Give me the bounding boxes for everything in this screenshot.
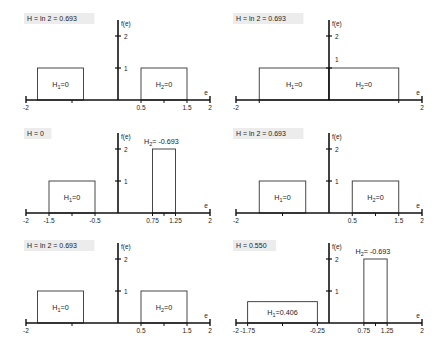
distribution-box: H2= -0.693	[356, 247, 391, 323]
y-axis: 12f(e)	[115, 20, 131, 100]
chart-panel-middle-right: H = ln 2 = 0.693H1=0H2=0-20.51.52e12f(e)	[233, 128, 424, 224]
x-tick-label: 1.5	[394, 217, 403, 224]
distribution-box: H1=0	[38, 68, 84, 100]
x-tick-label: -0.25	[310, 327, 325, 334]
x-tick-label: 2	[208, 327, 212, 334]
chart-panel-bottom-right: H = 0.550H1=0.406H2= -0.693-2-1.75-0.250…	[233, 240, 424, 334]
entropy-label: H = 0	[24, 128, 52, 139]
box-entropy-label: H2=0	[156, 80, 172, 90]
y-tick-label: 2	[335, 146, 339, 153]
x-tick-label: 0.5	[136, 104, 145, 111]
y-axis: 12f(e)	[115, 133, 131, 213]
distribution-box: H2=0	[329, 68, 399, 100]
chart-panel-middle-left: H = 0H1=0H2= -0.693-2-1.5-0.50.751.252e1…	[23, 128, 212, 224]
y-tick-label: 1	[335, 56, 339, 63]
svg-text:H = ln 2 = 0.693: H = ln 2 = 0.693	[236, 130, 286, 137]
svg-text:H = ln 2 = 0.693: H = ln 2 = 0.693	[27, 15, 77, 22]
x-tick-label: 1.5	[182, 327, 191, 334]
box-entropy-label: H2= -0.693	[144, 137, 179, 147]
y-axis: 12f(e)	[326, 133, 342, 213]
distribution-box: H2=0	[141, 68, 187, 100]
chart-panel-bottom-left: H = ln 2 = 0.693H1=0H2=0-20.51.52e12f(e)	[23, 240, 212, 334]
box-entropy-label: H1=0	[286, 80, 302, 90]
box-entropy-label: H1=0	[52, 303, 68, 313]
y-axis: 12f(e)	[115, 243, 131, 323]
x-tick-label: -2	[233, 217, 239, 224]
x-tick-label: 2	[208, 217, 212, 224]
svg-text:H = ln 2 = 0.693: H = ln 2 = 0.693	[236, 15, 286, 22]
x-tick-label: 2	[208, 104, 212, 111]
y-axis-label: f(e)	[121, 133, 131, 141]
y-tick-label: 2	[124, 33, 128, 40]
box-entropy-label: H1=0	[52, 80, 68, 90]
chart-panel-top-right: H = ln 2 = 0.693H1=0H2=0-22e12f(e)	[233, 13, 424, 111]
y-axis: 12f(e)	[326, 243, 342, 323]
y-tick-label: 1	[124, 288, 128, 295]
distribution-box: H1=0	[259, 68, 329, 100]
box-entropy-label: H2= -0.693	[356, 247, 391, 257]
x-axis-label: e	[204, 312, 208, 319]
y-axis-label: f(e)	[332, 20, 342, 28]
x-axis-label: e	[416, 89, 420, 96]
x-axis-label: e	[416, 202, 420, 209]
box-entropy-label: H2=0	[367, 193, 383, 203]
x-tick-label: 1.25	[381, 327, 394, 334]
entropy-label: H = ln 2 = 0.693	[233, 128, 303, 139]
y-tick-label: 1	[124, 178, 128, 185]
x-tick-label: 2	[420, 217, 424, 224]
y-axis-label: f(e)	[332, 243, 342, 251]
x-tick-label: -2	[233, 104, 239, 111]
svg-text:H = 0.550: H = 0.550	[236, 242, 267, 249]
x-tick-label: 0.5	[136, 327, 145, 334]
y-tick-label: 2	[124, 256, 128, 263]
distribution-box: H2=0	[141, 291, 187, 323]
distribution-box: H1=0	[259, 181, 306, 213]
y-tick-label: 2	[335, 33, 339, 40]
entropy-label: H = 0.550	[233, 240, 276, 251]
x-tick-label: -2	[23, 217, 29, 224]
x-axis-label: e	[416, 312, 420, 319]
y-axis-label: f(e)	[121, 243, 131, 251]
x-tick-label: 1.25	[169, 217, 182, 224]
chart-panel-top-left: H = ln 2 = 0.693H1=0H2=0-20.51.52e12f(e)	[23, 13, 212, 111]
box-entropy-label: H1=0	[274, 193, 290, 203]
x-tick-label: -2	[233, 327, 239, 334]
distribution-box: H1=0.406	[248, 302, 318, 323]
x-tick-label: -1.75	[240, 327, 255, 334]
entropy-label: H = ln 2 = 0.693	[24, 13, 94, 24]
x-tick-label: 0.5	[348, 217, 357, 224]
x-tick-label: -2	[23, 327, 29, 334]
x-tick-label: 1.5	[182, 104, 191, 111]
svg-text:H = ln 2 = 0.693: H = ln 2 = 0.693	[27, 242, 77, 249]
x-axis-label: e	[204, 202, 208, 209]
box-entropy-label: H1=0.406	[267, 308, 297, 318]
distribution-box: H2=0	[352, 181, 399, 213]
box-entropy-label: H2=0	[156, 303, 172, 313]
box-entropy-label: H2=0	[356, 80, 372, 90]
svg-text:H = 0: H = 0	[27, 130, 44, 137]
y-tick-label: 1	[335, 288, 339, 295]
entropy-label: H = ln 2 = 0.693	[24, 240, 94, 251]
y-tick-label: 2	[335, 256, 339, 263]
x-tick-label: -2	[23, 104, 29, 111]
y-tick-label: 2	[124, 146, 128, 153]
x-tick-label: -1.5	[43, 217, 55, 224]
x-tick-label: 0.75	[146, 217, 159, 224]
x-tick-label: 2	[420, 327, 424, 334]
x-tick-label: 2	[420, 104, 424, 111]
y-axis-label: f(e)	[121, 20, 131, 28]
x-tick-label: 0.75	[358, 327, 371, 334]
y-tick-label: 1	[335, 178, 339, 185]
x-tick-label: -0.5	[89, 217, 101, 224]
y-axis-label: f(e)	[332, 133, 342, 141]
distribution-box: H1=0	[49, 181, 95, 213]
entropy-label: H = ln 2 = 0.693	[233, 13, 303, 24]
x-axis-label: e	[204, 89, 208, 96]
distribution-box: H1=0	[38, 291, 84, 323]
distribution-box: H2= -0.693	[144, 137, 179, 213]
box-entropy-label: H1=0	[64, 193, 80, 203]
y-tick-label: 1	[124, 65, 128, 72]
entropy-charts-figure: H = ln 2 = 0.693H1=0H2=0-20.51.52e12f(e)…	[0, 0, 443, 347]
